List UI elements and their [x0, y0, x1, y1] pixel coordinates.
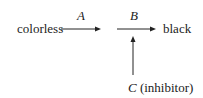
arrow-a-icon [61, 27, 101, 32]
inhibitor-arrow-icon [131, 36, 136, 75]
arrows-layer [0, 0, 203, 98]
arrow-b-icon [117, 27, 156, 32]
